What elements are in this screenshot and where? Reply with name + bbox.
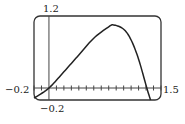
ymin-label: −0.2 xyxy=(40,104,64,114)
viewing-window-frame xyxy=(34,16,161,100)
xmin-label: −0.2 xyxy=(5,85,29,95)
graph-window xyxy=(0,0,185,124)
ymax-label: 1.2 xyxy=(43,4,59,14)
function-curve xyxy=(34,25,151,100)
xmax-label: 1.5 xyxy=(163,85,179,95)
